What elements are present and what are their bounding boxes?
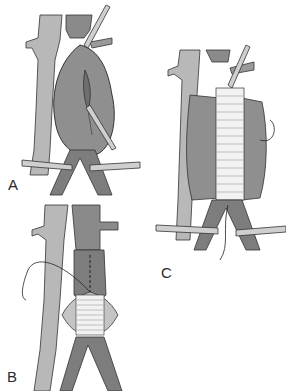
panel-label-b: B: [7, 368, 17, 385]
panel-b: [0, 200, 150, 391]
panel-c: [150, 40, 286, 260]
panel-label-a: A: [8, 176, 18, 193]
panel-label-c: C: [161, 264, 172, 281]
panel-a-illustration: [0, 0, 150, 200]
panel-c-illustration: [150, 40, 286, 260]
panel-a: [0, 0, 150, 200]
panel-b-illustration: [0, 200, 150, 391]
